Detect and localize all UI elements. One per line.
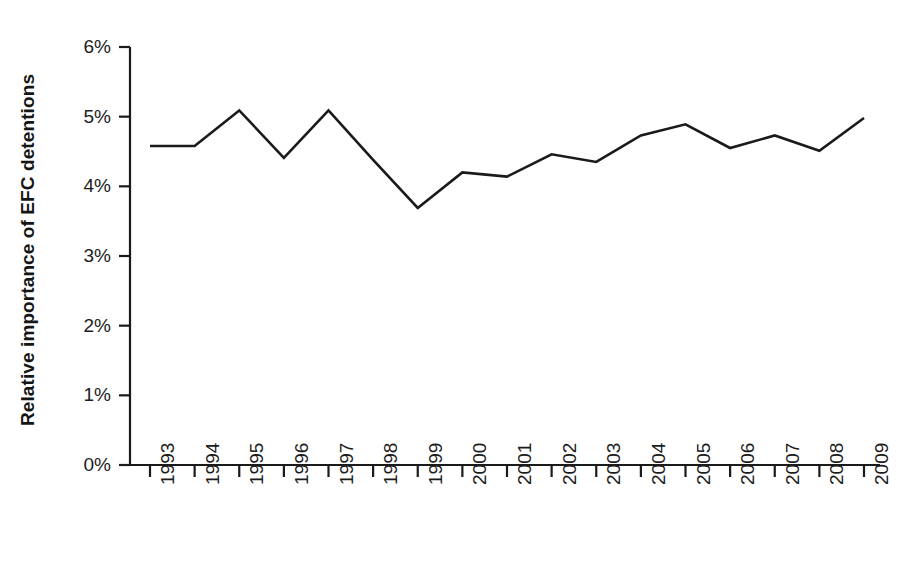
- x-axis-tick-label: 2007: [782, 443, 804, 485]
- y-axis-tick-label: 1%: [53, 384, 111, 406]
- x-axis-tick-label: 2002: [559, 443, 581, 485]
- x-axis-tick-label: 1999: [425, 443, 447, 485]
- data-series-line: [150, 110, 864, 208]
- x-axis-tick-label: 1995: [246, 443, 268, 485]
- x-axis-tick-label: 1998: [380, 443, 402, 485]
- x-axis-tick-label: 2006: [737, 443, 759, 485]
- x-axis-tick-label: 2003: [603, 443, 625, 485]
- y-axis-tick-label: 3%: [53, 245, 111, 267]
- x-axis-tick-label: 2009: [871, 443, 893, 485]
- x-axis-tick-label: 2000: [469, 443, 491, 485]
- x-axis-tick-label: 2008: [826, 443, 848, 485]
- x-axis-tick-label: 2001: [514, 443, 536, 485]
- y-axis-tick-label: 4%: [53, 175, 111, 197]
- x-axis-tick-label: 2004: [648, 443, 670, 485]
- y-axis-tick-label: 0%: [53, 454, 111, 476]
- chart-figure: Relative importance of EFC detentions 0%…: [0, 0, 902, 577]
- y-axis-tick-label: 2%: [53, 315, 111, 337]
- y-axis-tick-label: 5%: [53, 106, 111, 128]
- x-axis-tick-label: 1993: [157, 443, 179, 485]
- x-axis-tick-label: 2005: [693, 443, 715, 485]
- chart-plot-area: [0, 0, 902, 577]
- x-axis-tick-label: 1994: [202, 443, 224, 485]
- x-axis-tick-label: 1996: [291, 443, 313, 485]
- y-axis-tick-label: 6%: [53, 36, 111, 58]
- x-axis-tick-label: 1997: [336, 443, 358, 485]
